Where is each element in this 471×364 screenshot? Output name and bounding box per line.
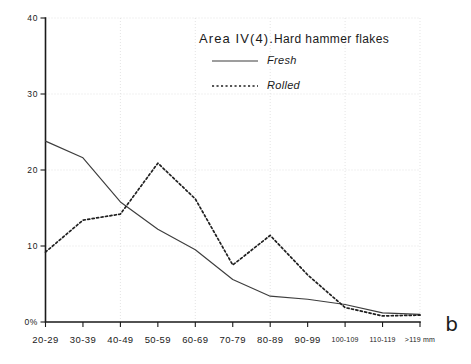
legend-label-fresh: Fresh (267, 54, 297, 66)
x-axis-tick-label: 30-39 (70, 334, 96, 345)
y-axis-tick-label: 30 (8, 89, 38, 99)
x-axis-tick-label: 50-59 (145, 334, 171, 345)
x-axis-tick-label: 40-49 (107, 334, 133, 345)
panel-letter: b (445, 312, 458, 336)
y-axis-tick-label: 20 (8, 165, 38, 175)
x-axis-tick-label: 90-99 (294, 334, 320, 345)
x-axis-tick-label: 70-79 (220, 334, 246, 345)
data-series-group (46, 141, 421, 316)
x-axis-tick-label: 20-29 (32, 334, 58, 345)
series-line-rolled (46, 163, 421, 316)
chart-title: Area IV(4).Hard hammer flakes (199, 31, 389, 46)
x-axis-tick-label: 60-69 (182, 334, 208, 345)
y-axis-tick-label: 0% (8, 317, 38, 327)
x-axis-tick-label: 80-89 (257, 334, 283, 345)
chart-title-rest: Hard hammer flakes (274, 32, 389, 46)
y-axis-tick-label: 40 (8, 13, 38, 23)
x-axis-tick-label: >119 mm (405, 336, 435, 343)
chart-figure: 403020100% 20-2930-3940-4950-5960-6970-7… (0, 0, 471, 364)
x-axis-tick-label: 110-119 (370, 336, 396, 343)
y-axis-tick-label: 10 (8, 241, 38, 251)
chart-canvas (0, 0, 471, 364)
series-line-fresh (46, 141, 421, 314)
x-axis-tick-label: 100-109 (332, 336, 359, 343)
gridlines-group (46, 18, 421, 322)
legend-label-rolled: Rolled (267, 79, 300, 91)
legend-marks-group (212, 61, 258, 86)
chart-title-area: Area IV(4). (199, 31, 274, 46)
tick-marks-group (41, 18, 421, 327)
